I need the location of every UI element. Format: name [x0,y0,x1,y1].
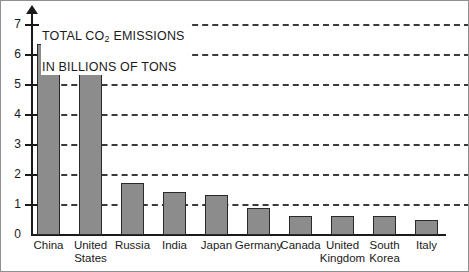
y-tick-label-7: 7 [1,18,21,30]
bar-germany [247,208,270,235]
bar-japan [205,195,228,235]
y-axis-line [31,12,33,236]
y-tick-label-1: 1 [1,198,21,210]
bar-united-states [79,54,102,235]
chart-title-pre: TOTAL CO [42,29,105,43]
bar-india [163,192,186,235]
chart-title-post: EMISSIONS [110,29,185,43]
x-label-italy: Italy [401,239,452,252]
chart-title-line2: IN BILLIONS OF TONS [42,60,177,74]
y-tick-label-4: 4 [1,108,21,120]
y-tick-label-3: 3 [1,138,21,150]
bar-south-korea [373,216,396,235]
bar-italy [415,220,438,235]
bar-united-kingdom [331,216,354,235]
y-tick-label-0: 0 [1,228,21,240]
bar-canada [289,216,312,235]
chart-figure: 7 6 5 4 3 2 1 0 TOTAL CO2 EMISSIONS IN B… [0,0,469,272]
y-tick-7 [25,24,39,26]
y-tick-label-2: 2 [1,168,21,180]
chart-title-line1: TOTAL CO2 EMISSIONS [42,29,185,43]
chart-title: TOTAL CO2 EMISSIONS IN BILLIONS OF TONS [41,14,188,75]
bar-russia [121,183,144,235]
y-tick-label-6: 6 [1,48,21,60]
y-tick-label-5: 5 [1,78,21,90]
plot-area: 7 6 5 4 3 2 1 0 TOTAL CO2 EMISSIONS IN B… [1,1,469,272]
co2-subscript: 2 [105,34,110,44]
